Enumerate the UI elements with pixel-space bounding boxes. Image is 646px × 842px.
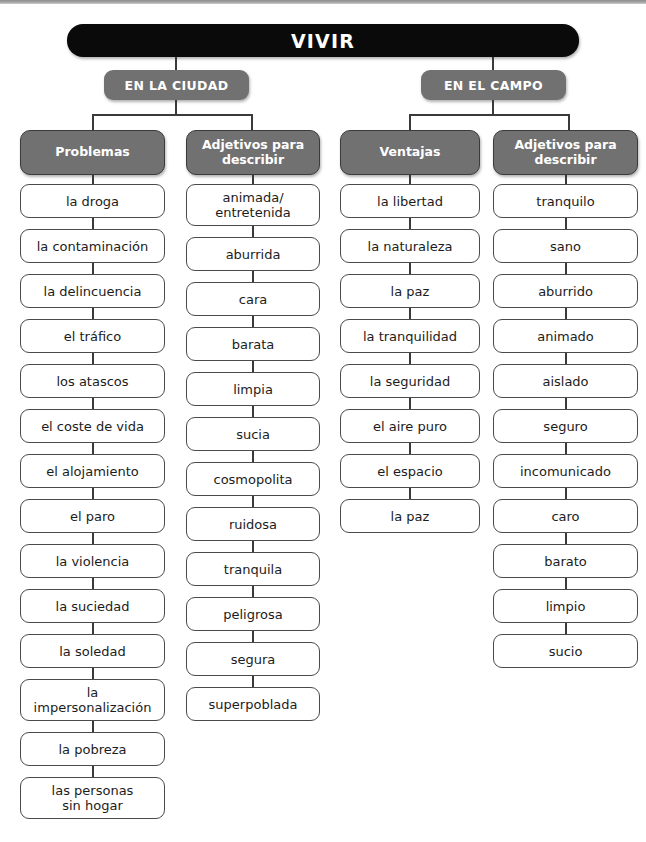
item-box: cosmopolita xyxy=(186,462,320,496)
item-label: peligrosa xyxy=(223,607,282,622)
connector-ventajas-7 xyxy=(409,488,411,499)
connector-problemas-6 xyxy=(92,443,94,454)
item-box: tranquila xyxy=(186,552,320,586)
item-box: la delincuencia xyxy=(20,274,165,308)
connector-adjetivos-ciudad-5 xyxy=(252,406,254,417)
connector-problemas-5 xyxy=(92,398,94,409)
item-label: cara xyxy=(239,292,267,307)
item-label: animada/entretenida xyxy=(215,190,291,221)
item-box: sano xyxy=(493,229,638,263)
item-label: barato xyxy=(544,554,587,569)
item-label: cosmopolita xyxy=(214,472,293,487)
item-box: la soledad xyxy=(20,634,165,668)
connector-ventajas-4 xyxy=(409,353,411,364)
item-box: la tranquilidad xyxy=(340,319,480,353)
connector-ciudad-to-col1 xyxy=(92,114,94,130)
item-label: aislado xyxy=(542,374,588,389)
item-box: limpio xyxy=(493,589,638,623)
item-label: la contaminación xyxy=(37,239,149,254)
item-label: caro xyxy=(551,509,579,524)
connector-campo-to-col3 xyxy=(409,114,411,130)
connector-problemas-7 xyxy=(92,488,94,499)
connector-ventajas-2 xyxy=(409,263,411,274)
item-label: sano xyxy=(550,239,581,254)
item-box: aburrida xyxy=(186,237,320,271)
connector-problemas-2 xyxy=(92,263,94,274)
connector-problemas-0 xyxy=(92,175,94,184)
connector-ciudad-stem xyxy=(175,100,177,115)
branch-header-en-la-ciudad: EN LA CIUDAD xyxy=(104,70,249,100)
item-label: el alojamiento xyxy=(46,464,138,479)
connector-adjetivos-ciudad-0 xyxy=(252,175,254,184)
connector-adjetivos-ciudad-7 xyxy=(252,496,254,507)
item-label: incomunicado xyxy=(520,464,611,479)
connector-adjetivos-ciudad-9 xyxy=(252,586,254,597)
connector-problemas-10 xyxy=(92,623,94,634)
item-label: la naturaleza xyxy=(368,239,453,254)
item-label: tranquilo xyxy=(536,194,594,209)
item-box: la paz xyxy=(340,274,480,308)
item-box: el aire puro xyxy=(340,409,480,443)
connector-problemas-4 xyxy=(92,353,94,364)
item-box: peligrosa xyxy=(186,597,320,631)
item-box: el coste de vida xyxy=(20,409,165,443)
item-box: barata xyxy=(186,327,320,361)
item-label: aburrida xyxy=(226,247,281,262)
item-label: limpia xyxy=(233,382,273,397)
connector-adjetivos-ciudad-2 xyxy=(252,271,254,282)
connector-problemas-13 xyxy=(92,766,94,777)
connector-problemas-11 xyxy=(92,668,94,679)
connector-ventajas-6 xyxy=(409,443,411,454)
connector-adjetivos-ciudad-1 xyxy=(252,226,254,237)
item-label: aburrido xyxy=(538,284,593,299)
item-label: los atascos xyxy=(56,374,128,389)
connector-adjetivos-ciudad-8 xyxy=(252,541,254,552)
connector-ciudad-bus xyxy=(92,114,253,116)
item-box: el espacio xyxy=(340,454,480,488)
item-label: la violencia xyxy=(56,554,130,569)
connector-adjetivos-campo-3 xyxy=(565,308,567,319)
item-label: la seguridad xyxy=(370,374,450,389)
item-label: ruidosa xyxy=(229,517,277,532)
item-box: la violencia xyxy=(20,544,165,578)
item-box: animado xyxy=(493,319,638,353)
connector-adjetivos-campo-8 xyxy=(565,533,567,544)
item-box: tranquilo xyxy=(493,184,638,218)
column-header-problemas: Problemas xyxy=(20,130,165,175)
item-box: los atascos xyxy=(20,364,165,398)
item-box: el alojamiento xyxy=(20,454,165,488)
item-box: animada/entretenida xyxy=(186,184,320,226)
item-box: laimpersonalización xyxy=(20,679,165,721)
item-label: limpio xyxy=(546,599,586,614)
connector-adjetivos-ciudad-10 xyxy=(252,631,254,642)
connector-problemas-8 xyxy=(92,533,94,544)
item-box: segura xyxy=(186,642,320,676)
item-label: la droga xyxy=(66,194,119,209)
item-box: la droga xyxy=(20,184,165,218)
connector-ventajas-5 xyxy=(409,398,411,409)
connector-campo-to-col4 xyxy=(568,114,570,130)
connector-adjetivos-campo-4 xyxy=(565,353,567,364)
column-header-adjetivos-ciudad: Adjetivos paradescribir xyxy=(186,130,320,175)
connector-adjetivos-campo-2 xyxy=(565,263,567,274)
item-box: el paro xyxy=(20,499,165,533)
item-label: la libertad xyxy=(377,194,443,209)
item-label: la pobreza xyxy=(58,742,126,757)
item-box: sucio xyxy=(493,634,638,668)
item-label: superpoblada xyxy=(209,697,298,712)
connector-adjetivos-ciudad-4 xyxy=(252,361,254,372)
item-label: animado xyxy=(537,329,594,344)
item-label: tranquila xyxy=(224,562,282,577)
branch-header-en-el-campo: EN EL CAMPO xyxy=(421,70,566,100)
item-label: sucio xyxy=(549,644,583,659)
item-box: limpia xyxy=(186,372,320,406)
item-label: la suciedad xyxy=(56,599,130,614)
item-label: el espacio xyxy=(377,464,442,479)
item-box: la seguridad xyxy=(340,364,480,398)
item-label: la paz xyxy=(391,509,430,524)
connector-ventajas-3 xyxy=(409,308,411,319)
connector-adjetivos-campo-10 xyxy=(565,623,567,634)
item-box: la pobreza xyxy=(20,732,165,766)
item-box: aislado xyxy=(493,364,638,398)
item-box: caro xyxy=(493,499,638,533)
